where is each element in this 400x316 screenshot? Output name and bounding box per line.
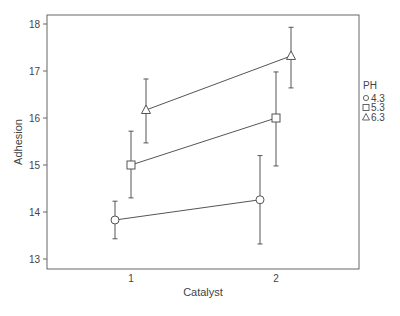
y-tick-label: 13 — [29, 254, 41, 265]
legend-label: 6.3 — [371, 112, 385, 123]
square-marker — [272, 114, 280, 122]
series-layer — [111, 27, 296, 244]
y-tick-label: 18 — [29, 19, 41, 30]
series-ph-5-3 — [127, 72, 280, 198]
series-line — [146, 56, 291, 110]
y-tick-label: 17 — [29, 66, 41, 77]
x-axis: 12 — [128, 273, 279, 284]
square-marker — [127, 161, 135, 169]
legend-item: 6.3 — [363, 112, 386, 123]
legend-title: PH — [363, 80, 377, 91]
x-tick-label: 1 — [128, 273, 134, 284]
legend: PH 4.35.36.3 — [363, 80, 386, 123]
y-tick-label: 15 — [29, 160, 41, 171]
circle-marker — [111, 216, 119, 224]
y-tick-label: 16 — [29, 113, 41, 124]
interaction-plot: 131415161718 12 Adhesion Catalyst PH 4.3… — [0, 0, 400, 316]
circle-marker — [256, 196, 264, 204]
square-icon — [363, 105, 369, 111]
x-axis-label: Catalyst — [183, 286, 223, 298]
y-axis: 131415161718 — [29, 19, 47, 265]
y-axis-label: Adhesion — [12, 119, 24, 165]
y-tick-label: 14 — [29, 207, 41, 218]
x-tick-label: 2 — [273, 273, 279, 284]
series-line — [115, 200, 260, 220]
triangle-icon — [363, 114, 370, 121]
series-ph-6-3 — [142, 27, 296, 143]
circle-icon — [363, 95, 368, 100]
series-line — [131, 118, 276, 165]
triangle-marker — [287, 51, 296, 60]
